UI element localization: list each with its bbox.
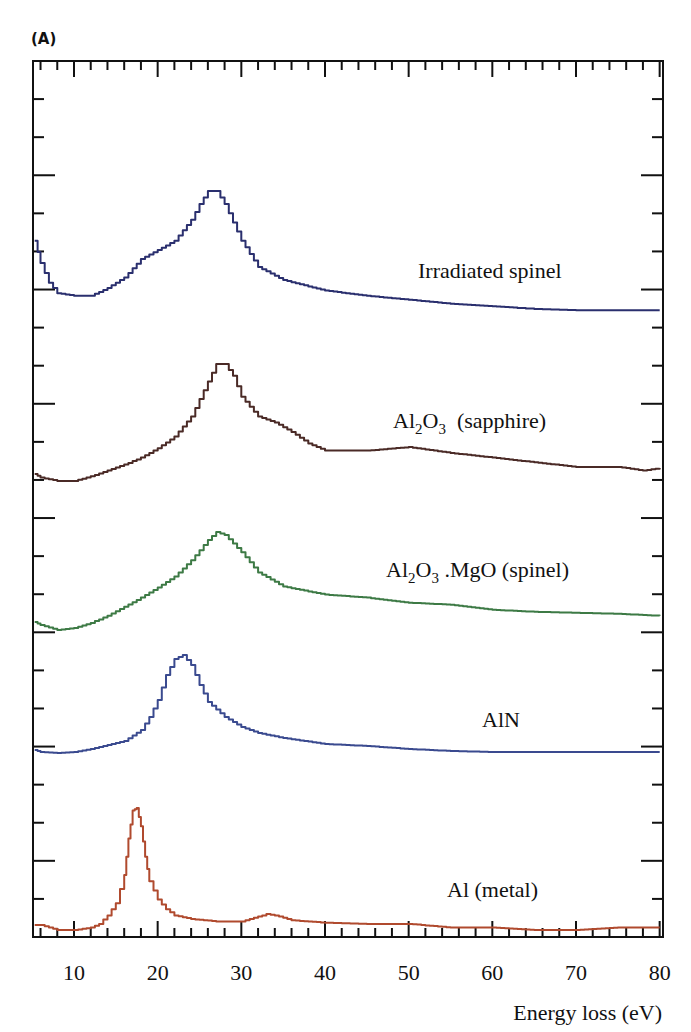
curve-sapphire [35,364,660,481]
x-tick-label: 10 [63,960,85,985]
x-tick-label: 30 [230,960,252,985]
x-tick-label: 70 [565,960,587,985]
curve-aln [35,655,660,753]
plot-frame [33,61,663,937]
x-tick-label: 60 [481,960,503,985]
label-al-metal: Al (metal) [447,877,538,902]
x-tick-label: 50 [398,960,420,985]
x-tick-label: 40 [314,960,336,985]
x-axis-title: Energy loss (eV) [513,1000,662,1025]
x-tick-labels: 1020304050607080 [63,960,671,985]
label-irradiated-spinel: Irradiated spinel [418,258,562,283]
curve-al-metal [35,808,660,930]
label-aln: AlN [482,707,520,732]
axis-ticks [33,61,663,937]
curve-irradiated-spinel [35,191,660,310]
x-tick-label: 80 [649,960,671,985]
eels-spectra-figure: (A) 1020304050607080 Irradiated spinel A… [0,0,691,1032]
x-tick-label: 20 [147,960,169,985]
label-spinel: Al2O3 .MgO (spinel) [386,557,569,586]
label-sapphire: Al2O3 (sapphire) [393,408,546,437]
panel-label: (A) [31,30,56,48]
